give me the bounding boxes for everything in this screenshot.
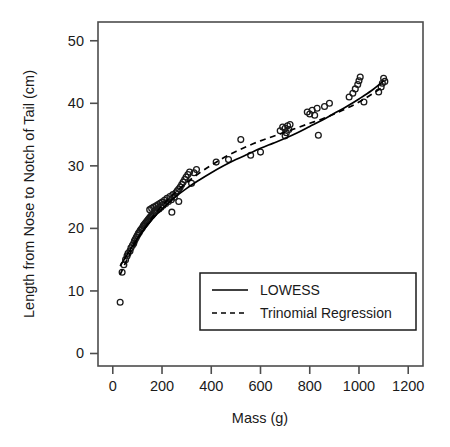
x-tick-label: 1200 [392,378,424,394]
x-tick-label: 200 [150,378,174,394]
legend-label-lowess: LOWESS [260,282,320,298]
y-tick-label: 10 [68,283,84,299]
x-axis-title: Mass (g) [232,410,288,426]
y-tick-label: 20 [68,220,84,236]
y-tick-label: 50 [68,33,84,49]
x-tick-label: 600 [248,378,272,394]
y-tick-label: 30 [68,158,84,174]
y-tick-label: 0 [76,345,84,361]
x-tick-label: 1000 [343,378,375,394]
chart-figure: 01020304050 020040060080010001200 Length… [0,0,450,447]
x-tick-label: 0 [109,378,117,394]
legend-label-trinomial-regression: Trinomial Regression [260,305,392,321]
y-tick-label: 40 [68,95,84,111]
y-axis-title: Length from Nose to Notch of Tail (cm) [21,70,37,318]
scatter-plot: 01020304050 020040060080010001200 Length… [0,0,450,447]
x-tick-label: 400 [199,378,223,394]
chart-legend: LOWESS Trinomial Regression [200,273,416,330]
x-tick-label: 800 [298,378,322,394]
